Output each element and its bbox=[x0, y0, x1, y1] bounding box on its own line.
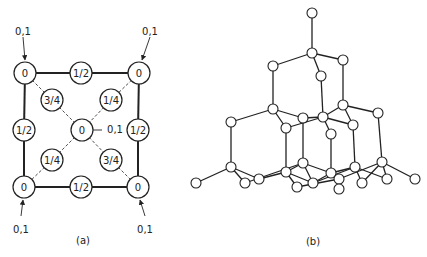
atom-node: 0 bbox=[128, 62, 150, 84]
atom-node: 1/4 bbox=[100, 89, 122, 111]
lattice-atom bbox=[334, 174, 344, 184]
figure-svg: 0,10,10,10,10,1 01/203/41/41/201/21/43/4… bbox=[0, 0, 427, 257]
lattice-bond bbox=[353, 125, 355, 167]
annotation-arrow bbox=[21, 200, 23, 216]
lattice-atom bbox=[268, 104, 278, 114]
atom-height-label: 1/4 bbox=[103, 95, 119, 106]
lattice-atom bbox=[334, 184, 344, 194]
panel-a-layer-diagram: 0,10,10,10,10,1 01/203/41/41/201/21/43/4… bbox=[13, 26, 158, 247]
lattice-atom bbox=[326, 129, 336, 139]
lattice-atom bbox=[316, 71, 326, 81]
lattice-atom bbox=[318, 112, 328, 122]
annotation-label: 0,1 bbox=[137, 224, 153, 235]
lattice-atom bbox=[357, 178, 367, 188]
atom-height-label: 1/4 bbox=[44, 155, 60, 166]
annotation-arrow bbox=[23, 37, 25, 60]
lattice-atom bbox=[307, 48, 317, 58]
atom-height-label: 1/2 bbox=[73, 68, 89, 79]
atom-node: 1/2 bbox=[13, 119, 35, 141]
lattice-atom bbox=[377, 157, 387, 167]
annotation-label: 0,1 bbox=[107, 124, 123, 135]
lattice-atom bbox=[348, 120, 358, 130]
atom-node: 0 bbox=[14, 62, 36, 84]
lattice-atom bbox=[226, 162, 236, 172]
lattice-atom bbox=[410, 174, 420, 184]
atom-height-label: 0 bbox=[136, 68, 142, 79]
atom-node: 1/2 bbox=[70, 62, 92, 84]
lattice-bond bbox=[231, 109, 273, 122]
lattice-atom bbox=[226, 117, 236, 127]
lattice-atom bbox=[373, 108, 383, 118]
lattice-bond bbox=[196, 167, 231, 183]
lattice-atom bbox=[191, 178, 201, 188]
lattice-atom bbox=[298, 158, 308, 168]
lattice-atom bbox=[254, 174, 264, 184]
atom-height-label: 1/2 bbox=[73, 182, 89, 193]
lattice-atom bbox=[338, 55, 348, 65]
atom-height-label: 3/4 bbox=[103, 155, 119, 166]
lattice-bond bbox=[273, 53, 312, 66]
annotation-label: 0,1 bbox=[13, 224, 29, 235]
lattice-atom bbox=[281, 167, 291, 177]
atom-node: 1/2 bbox=[70, 176, 92, 198]
atom-node: 1/4 bbox=[41, 149, 63, 171]
atom-node: 3/4 bbox=[41, 89, 63, 111]
atom-node: 0 bbox=[71, 119, 93, 141]
panel-b-nodes bbox=[191, 8, 420, 194]
atom-node: 1/2 bbox=[127, 119, 149, 141]
panel-b-3d-lattice: (b) bbox=[191, 8, 420, 247]
lattice-atom bbox=[308, 178, 318, 188]
atom-height-label: 0 bbox=[22, 68, 28, 79]
lattice-atom bbox=[240, 178, 250, 188]
annotation-label: 0,1 bbox=[142, 26, 158, 37]
atom-node: 0 bbox=[127, 176, 149, 198]
lattice-atom bbox=[382, 174, 392, 184]
annotation-arrow bbox=[140, 200, 145, 216]
atom-height-label: 3/4 bbox=[44, 95, 60, 106]
atom-height-label: 0 bbox=[135, 182, 141, 193]
lattice-atom bbox=[350, 162, 360, 172]
lattice-atom bbox=[338, 100, 348, 110]
atom-height-label: 1/2 bbox=[16, 125, 32, 136]
atom-height-label: 0 bbox=[79, 125, 85, 136]
figure-canvas: 0,10,10,10,10,1 01/203/41/41/201/21/43/4… bbox=[0, 0, 427, 257]
panel-b-caption: (b) bbox=[306, 236, 320, 247]
annotation-label: 0,1 bbox=[15, 26, 31, 37]
lattice-bond bbox=[321, 76, 323, 117]
lattice-atom bbox=[292, 182, 302, 192]
annotation-arrow bbox=[142, 37, 150, 60]
atom-height-label: 0 bbox=[21, 182, 27, 193]
atom-height-label: 1/2 bbox=[130, 125, 146, 136]
atom-node: 0 bbox=[13, 176, 35, 198]
lattice-atom bbox=[268, 61, 278, 71]
panel-a-caption: (a) bbox=[76, 235, 90, 246]
atom-node: 3/4 bbox=[100, 149, 122, 171]
lattice-atom bbox=[281, 123, 291, 133]
lattice-bond bbox=[378, 113, 382, 162]
lattice-atom bbox=[298, 113, 308, 123]
lattice-atom bbox=[307, 8, 317, 18]
